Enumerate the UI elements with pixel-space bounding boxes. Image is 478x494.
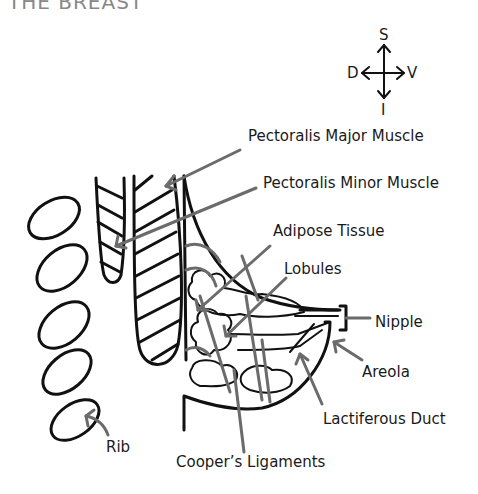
nipple <box>295 306 370 330</box>
pectoralis-minor-muscle <box>96 178 124 283</box>
label-adipose-tissue: Adipose Tissue <box>273 224 384 239</box>
label-rib: Rib <box>106 440 130 455</box>
compass-dorsal-label: D <box>347 66 359 81</box>
label-lobules: Lobules <box>284 262 342 277</box>
compass-ventral-label: V <box>407 66 417 81</box>
label-pectoralis-minor: Pectoralis Minor Muscle <box>263 176 439 191</box>
label-areola: Areola <box>362 365 410 380</box>
label-nipple: Nipple <box>375 315 423 330</box>
compass-superior-label: S <box>379 28 389 43</box>
compass-inferior-label: I <box>381 103 385 118</box>
label-pectoralis-major: Pectoralis Major Muscle <box>248 129 424 144</box>
label-lactiferous-duct: Lactiferous Duct <box>323 412 446 427</box>
compass-arrows-icon <box>362 45 404 98</box>
label-coopers-ligaments: Cooper’s Ligaments <box>176 455 325 470</box>
chest-wall-line <box>184 176 186 360</box>
pectoralis-major-muscle <box>134 176 181 364</box>
lactiferous-ducts <box>228 322 330 352</box>
coopers-ligaments-lines <box>186 244 270 402</box>
